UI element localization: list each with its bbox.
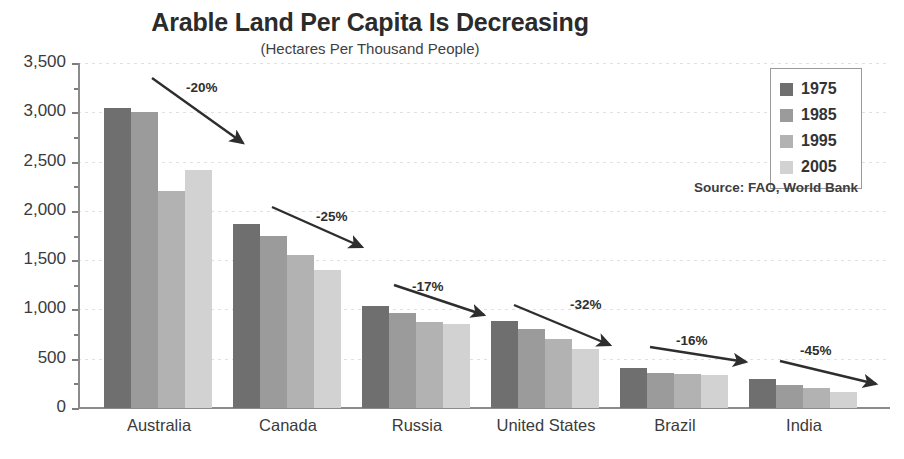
percent-change-label: -20% <box>186 80 218 95</box>
legend-item-1995[interactable]: 1995 <box>780 128 853 154</box>
y-axis-tick-label: 0 <box>0 397 66 417</box>
x-axis-category-label: India <box>723 416 885 435</box>
bar[interactable] <box>647 373 674 408</box>
bar[interactable] <box>233 224 260 408</box>
chart-container: Arable Land Per Capita Is Decreasing (He… <box>0 0 904 459</box>
bar[interactable] <box>314 270 341 408</box>
legend-item-label: 1995 <box>801 133 837 149</box>
legend-item-label: 1975 <box>801 81 837 97</box>
bar[interactable] <box>185 170 212 408</box>
bar[interactable] <box>260 236 287 409</box>
bar[interactable] <box>158 191 185 408</box>
y-axis-tick-label: 1,500 <box>0 249 66 269</box>
y-axis-tick-label: 1,000 <box>0 298 66 318</box>
legend-swatch-icon <box>780 135 793 148</box>
legend-swatch-icon <box>780 161 793 174</box>
bar-group <box>362 63 470 408</box>
legend-item-label: 1985 <box>801 107 837 123</box>
trend-arrow-icon <box>260 195 374 259</box>
y-axis-tick-label: 2,500 <box>0 151 66 171</box>
bar[interactable] <box>443 324 470 408</box>
chart-title: Arable Land Per Capita Is Decreasing <box>0 8 740 37</box>
y-axis-tick-label: 3,000 <box>0 101 66 121</box>
bar[interactable] <box>674 374 701 409</box>
y-axis-tick-label: 2,000 <box>0 200 66 220</box>
percent-change-label: -32% <box>570 297 602 312</box>
percent-change-label: -45% <box>800 343 832 358</box>
legend-item-2005[interactable]: 2005 <box>780 154 853 180</box>
bar[interactable] <box>701 375 728 408</box>
source-note: Source: FAO, World Bank <box>694 180 858 195</box>
legend-swatch-icon <box>780 83 793 96</box>
bar[interactable] <box>131 112 158 408</box>
bar[interactable] <box>287 255 314 408</box>
chart-subtitle: (Hectares Per Thousand People) <box>0 40 740 57</box>
y-axis-tick-label: 500 <box>0 348 66 368</box>
bar[interactable] <box>572 349 599 408</box>
legend-item-label: 2005 <box>801 159 837 175</box>
legend-swatch-icon <box>780 109 793 122</box>
bar[interactable] <box>104 108 131 408</box>
trend-arrow-icon <box>502 293 622 357</box>
bar[interactable] <box>416 322 443 408</box>
legend-item-1985[interactable]: 1985 <box>780 102 853 128</box>
y-axis-tick-label: 3,500 <box>0 52 66 72</box>
bar[interactable] <box>389 313 416 408</box>
legend[interactable]: 1975198519952005 <box>770 68 862 189</box>
percent-change-label: -17% <box>412 279 444 294</box>
percent-change-label: -16% <box>676 333 708 348</box>
legend-item-1975[interactable]: 1975 <box>780 76 853 102</box>
percent-change-label: -25% <box>316 209 348 224</box>
